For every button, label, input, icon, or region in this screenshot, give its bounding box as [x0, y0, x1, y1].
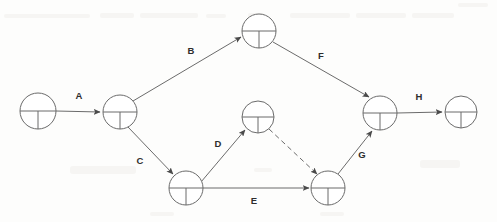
node-top[interactable] — [242, 14, 276, 48]
edge-g-line — [338, 131, 372, 174]
node-middle[interactable] — [242, 101, 274, 133]
edge-label-g: G — [358, 149, 365, 160]
edge-label-b: B — [188, 45, 195, 56]
edge-h-line — [397, 112, 442, 113]
network-diagram-svg: A B C D E F G H — [0, 0, 497, 222]
edge-dummy-dashed-line — [269, 129, 317, 174]
node-start[interactable] — [20, 93, 56, 129]
nodes-layer — [20, 14, 477, 205]
node-end[interactable] — [445, 96, 477, 128]
edge-label-f: F — [318, 50, 324, 61]
edge-label-d: D — [215, 138, 222, 149]
node-2[interactable] — [103, 95, 137, 129]
node-bottom-right[interactable] — [311, 171, 345, 205]
edge-label-c: C — [137, 155, 144, 166]
node-merge[interactable] — [363, 96, 397, 130]
node-bottom-left[interactable] — [169, 171, 203, 205]
edge-d-line — [201, 130, 245, 182]
edge-label-e: E — [251, 195, 257, 206]
edge-a-line — [56, 111, 100, 112]
network-diagram-canvas: A B C D E F G H — [0, 0, 497, 222]
edge-label-a: A — [76, 90, 83, 101]
edge-label-h: H — [416, 91, 423, 102]
